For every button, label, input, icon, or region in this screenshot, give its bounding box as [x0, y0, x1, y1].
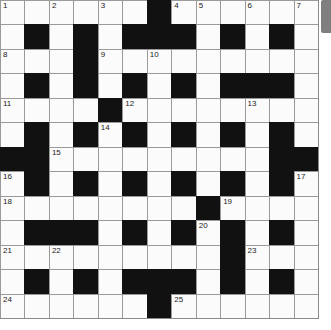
- answer-cell[interactable]: [245, 196, 269, 220]
- answer-cell[interactable]: [269, 245, 293, 269]
- answer-cell[interactable]: [220, 147, 244, 171]
- answer-cell[interactable]: [147, 122, 171, 146]
- answer-cell[interactable]: [49, 73, 73, 97]
- answer-cell[interactable]: [73, 294, 97, 318]
- answer-cell[interactable]: 3: [98, 0, 122, 24]
- answer-cell[interactable]: 21: [0, 245, 24, 269]
- answer-cell[interactable]: [24, 49, 48, 73]
- answer-cell[interactable]: [269, 98, 293, 122]
- answer-cell[interactable]: 6: [245, 0, 269, 24]
- answer-cell[interactable]: [98, 147, 122, 171]
- answer-cell[interactable]: [73, 147, 97, 171]
- answer-cell[interactable]: 11: [0, 98, 24, 122]
- answer-cell[interactable]: [73, 245, 97, 269]
- answer-cell[interactable]: [122, 245, 146, 269]
- answer-cell[interactable]: [196, 49, 220, 73]
- answer-cell[interactable]: 9: [98, 49, 122, 73]
- answer-cell[interactable]: 15: [49, 147, 73, 171]
- answer-cell[interactable]: [98, 73, 122, 97]
- answer-cell[interactable]: [269, 294, 293, 318]
- answer-cell[interactable]: [171, 98, 195, 122]
- answer-cell[interactable]: [196, 24, 220, 48]
- answer-cell[interactable]: 20: [196, 220, 220, 244]
- answer-cell[interactable]: [0, 24, 24, 48]
- answer-cell[interactable]: [196, 245, 220, 269]
- answer-cell[interactable]: [220, 0, 244, 24]
- answer-cell[interactable]: [269, 49, 293, 73]
- answer-cell[interactable]: [49, 49, 73, 73]
- answer-cell[interactable]: [245, 122, 269, 146]
- answer-cell[interactable]: 5: [196, 0, 220, 24]
- answer-cell[interactable]: [196, 171, 220, 195]
- answer-cell[interactable]: [98, 269, 122, 293]
- answer-cell[interactable]: 17: [294, 171, 318, 195]
- answer-cell[interactable]: [147, 73, 171, 97]
- answer-cell[interactable]: 18: [0, 196, 24, 220]
- answer-cell[interactable]: [24, 245, 48, 269]
- answer-cell[interactable]: 13: [245, 98, 269, 122]
- answer-cell[interactable]: [98, 171, 122, 195]
- answer-cell[interactable]: [294, 24, 318, 48]
- answer-cell[interactable]: [24, 0, 48, 24]
- answer-cell[interactable]: [122, 294, 146, 318]
- answer-cell[interactable]: 24: [0, 294, 24, 318]
- answer-cell[interactable]: [245, 269, 269, 293]
- answer-cell[interactable]: [147, 196, 171, 220]
- answer-cell[interactable]: [147, 147, 171, 171]
- answer-cell[interactable]: [294, 122, 318, 146]
- answer-cell[interactable]: [220, 49, 244, 73]
- answer-cell[interactable]: [245, 294, 269, 318]
- answer-cell[interactable]: [196, 294, 220, 318]
- answer-cell[interactable]: [122, 0, 146, 24]
- answer-cell[interactable]: [171, 147, 195, 171]
- answer-cell[interactable]: [220, 98, 244, 122]
- answer-cell[interactable]: [294, 73, 318, 97]
- answer-cell[interactable]: [147, 220, 171, 244]
- answer-cell[interactable]: [220, 294, 244, 318]
- answer-cell[interactable]: [245, 220, 269, 244]
- answer-cell[interactable]: [49, 171, 73, 195]
- answer-cell[interactable]: 4: [171, 0, 195, 24]
- answer-cell[interactable]: [294, 196, 318, 220]
- answer-cell[interactable]: 14: [98, 122, 122, 146]
- answer-cell[interactable]: 1: [0, 0, 24, 24]
- answer-cell[interactable]: [294, 49, 318, 73]
- answer-cell[interactable]: [294, 98, 318, 122]
- answer-cell[interactable]: [98, 245, 122, 269]
- answer-cell[interactable]: [171, 49, 195, 73]
- answer-cell[interactable]: [147, 98, 171, 122]
- answer-cell[interactable]: [0, 73, 24, 97]
- answer-cell[interactable]: 8: [0, 49, 24, 73]
- answer-cell[interactable]: [196, 269, 220, 293]
- answer-cell[interactable]: [49, 196, 73, 220]
- answer-cell[interactable]: [98, 24, 122, 48]
- answer-cell[interactable]: 2: [49, 0, 73, 24]
- answer-cell[interactable]: [73, 0, 97, 24]
- answer-cell[interactable]: [49, 122, 73, 146]
- answer-cell[interactable]: [245, 147, 269, 171]
- answer-cell[interactable]: [24, 196, 48, 220]
- answer-cell[interactable]: [269, 0, 293, 24]
- answer-cell[interactable]: [24, 98, 48, 122]
- answer-cell[interactable]: [294, 294, 318, 318]
- answer-cell[interactable]: 16: [0, 171, 24, 195]
- answer-cell[interactable]: [245, 24, 269, 48]
- answer-cell[interactable]: [0, 122, 24, 146]
- answer-cell[interactable]: [122, 49, 146, 73]
- answer-cell[interactable]: [0, 220, 24, 244]
- side-panel-tab[interactable]: [321, 0, 331, 33]
- answer-cell[interactable]: [147, 171, 171, 195]
- answer-cell[interactable]: [196, 98, 220, 122]
- answer-cell[interactable]: [0, 269, 24, 293]
- answer-cell[interactable]: [98, 294, 122, 318]
- answer-cell[interactable]: [245, 171, 269, 195]
- answer-cell[interactable]: [122, 196, 146, 220]
- answer-cell[interactable]: [49, 24, 73, 48]
- answer-cell[interactable]: [269, 196, 293, 220]
- answer-cell[interactable]: 25: [171, 294, 195, 318]
- answer-cell[interactable]: [98, 196, 122, 220]
- answer-cell[interactable]: [294, 245, 318, 269]
- answer-cell[interactable]: [171, 196, 195, 220]
- answer-cell[interactable]: [24, 294, 48, 318]
- answer-cell[interactable]: [196, 122, 220, 146]
